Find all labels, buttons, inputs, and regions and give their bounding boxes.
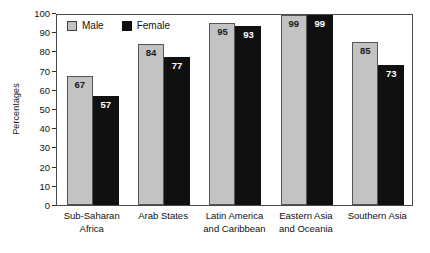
x-axis-category-label: Southern Asia: [342, 209, 413, 222]
y-tick-label: 90: [39, 28, 50, 38]
bar-male: 85: [352, 42, 378, 205]
y-tick-label: 80: [39, 47, 50, 57]
bar-group: 9593: [200, 15, 271, 205]
x-label-line: Southern Asia: [342, 209, 413, 222]
x-axis-category-label: Latin Americaand Caribbean: [199, 209, 270, 235]
y-tick-label: 30: [39, 143, 50, 153]
x-axis-labels: Sub-SaharanAfricaArab StatesLatin Americ…: [56, 209, 413, 251]
x-axis-category-label: Arab States: [127, 209, 198, 222]
bar-value-label: 57: [94, 99, 118, 110]
bars-layer: 67578477959399998573: [57, 15, 412, 205]
bar-value-label: 84: [139, 47, 163, 58]
bar-value-label: 95: [210, 26, 234, 37]
plot-area: Male Female 67578477959399998573: [56, 14, 413, 206]
bar-male: 95: [209, 23, 235, 205]
bar-male: 67: [67, 76, 93, 205]
bar-value-label: 99: [308, 18, 332, 29]
bar-value-label: 93: [236, 29, 260, 40]
bar-female: 77: [164, 57, 190, 205]
bar-female: 57: [93, 96, 119, 205]
x-label-line: Africa: [56, 222, 127, 235]
bar-value-label: 73: [379, 68, 403, 79]
x-axis-category-label: Eastern Asiaand Oceania: [270, 209, 341, 235]
x-label-line: and Caribbean: [199, 222, 270, 235]
bar-group: 9999: [271, 15, 342, 205]
bar-value-label: 67: [68, 79, 92, 90]
bar-female: 93: [235, 26, 261, 205]
bar-female: 99: [307, 15, 333, 205]
x-label-line: Latin America: [199, 209, 270, 222]
y-tick-label: 20: [39, 163, 50, 173]
bar-female: 73: [378, 65, 404, 205]
bar-male: 99: [281, 15, 307, 205]
x-label-line: Sub-Saharan: [56, 209, 127, 222]
y-tick-label: 10: [39, 182, 50, 192]
y-tick-label: 100: [34, 9, 50, 19]
x-axis-category-label: Sub-SaharanAfrica: [56, 209, 127, 235]
y-tick-label: 0: [45, 201, 50, 211]
bar-value-label: 99: [282, 18, 306, 29]
y-axis: 1009080706050403020100: [18, 14, 56, 206]
y-tick-label: 60: [39, 86, 50, 96]
y-tick-label: 70: [39, 67, 50, 77]
x-label-line: Arab States: [127, 209, 198, 222]
y-tick-label: 40: [39, 124, 50, 134]
bar-male: 84: [138, 44, 164, 205]
bar-group: 8477: [128, 15, 199, 205]
bar-value-label: 77: [165, 60, 189, 71]
y-tick-label: 50: [39, 105, 50, 115]
bar-group: 6757: [57, 15, 128, 205]
bar-group: 8573: [343, 15, 414, 205]
bar-chart: Percentages 1009080706050403020100 Male …: [0, 0, 430, 253]
x-label-line: and Oceania: [270, 222, 341, 235]
bar-value-label: 85: [353, 45, 377, 56]
x-label-line: Eastern Asia: [270, 209, 341, 222]
